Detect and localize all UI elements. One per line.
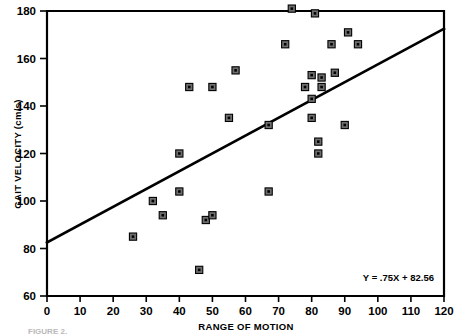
data-point	[265, 188, 272, 195]
y-tick-label: 180	[17, 5, 36, 17]
data-point	[301, 83, 308, 90]
data-point	[331, 69, 338, 76]
figure-container: 6080100120140160180 01020304050607080901…	[0, 0, 468, 336]
data-point	[149, 197, 156, 204]
data-point	[282, 41, 289, 48]
scatter-plot: 6080100120140160180 01020304050607080901…	[0, 0, 468, 336]
data-point	[186, 83, 193, 90]
data-point	[196, 266, 203, 273]
x-tick-label: 50	[206, 305, 219, 317]
data-point	[209, 83, 216, 90]
y-tick-label: 80	[23, 243, 36, 255]
x-tick-label: 30	[140, 305, 153, 317]
x-tick-label: 60	[239, 305, 252, 317]
data-point	[308, 114, 315, 121]
x-axis-title: RANGE OF MOTION	[198, 321, 293, 332]
x-tick-label: 90	[338, 305, 351, 317]
data-point	[129, 233, 136, 240]
y-tick-label: 60	[23, 290, 36, 302]
x-tick-label: 80	[305, 305, 318, 317]
x-tick-label: 120	[434, 305, 453, 317]
data-point	[318, 74, 325, 81]
x-tick-label: 110	[402, 305, 421, 317]
x-tick-label: 70	[272, 305, 285, 317]
data-point	[308, 72, 315, 79]
y-axis-title: GAIT VELOCITY (cm/s)	[12, 99, 23, 208]
data-point	[315, 138, 322, 145]
data-point	[159, 212, 166, 219]
x-tick-label: 10	[74, 305, 87, 317]
x-tick-label: 100	[368, 305, 387, 317]
x-tick-label: 0	[44, 305, 50, 317]
figure-caption: FIGURE 2.	[28, 327, 67, 336]
data-point	[308, 95, 315, 102]
data-point	[232, 67, 239, 74]
equation-annotation: Y = .75X + 82.56	[363, 272, 434, 283]
x-tick-label: 40	[173, 305, 186, 317]
data-point	[318, 83, 325, 90]
x-axis-tick-labels: 0102030405060708090100110120	[44, 305, 454, 317]
data-point	[265, 121, 272, 128]
data-point	[311, 10, 318, 17]
regression-line	[47, 29, 444, 243]
data-point	[288, 5, 295, 12]
data-point	[328, 41, 335, 48]
data-point	[344, 29, 351, 36]
x-tick-label: 20	[107, 305, 120, 317]
data-point	[209, 212, 216, 219]
y-tick-label: 160	[17, 53, 36, 65]
data-point	[176, 188, 183, 195]
data-point	[354, 41, 361, 48]
data-points	[129, 5, 361, 273]
plot-frame	[47, 11, 444, 296]
data-point	[176, 150, 183, 157]
data-point	[315, 150, 322, 157]
data-point	[341, 121, 348, 128]
data-point	[225, 114, 232, 121]
